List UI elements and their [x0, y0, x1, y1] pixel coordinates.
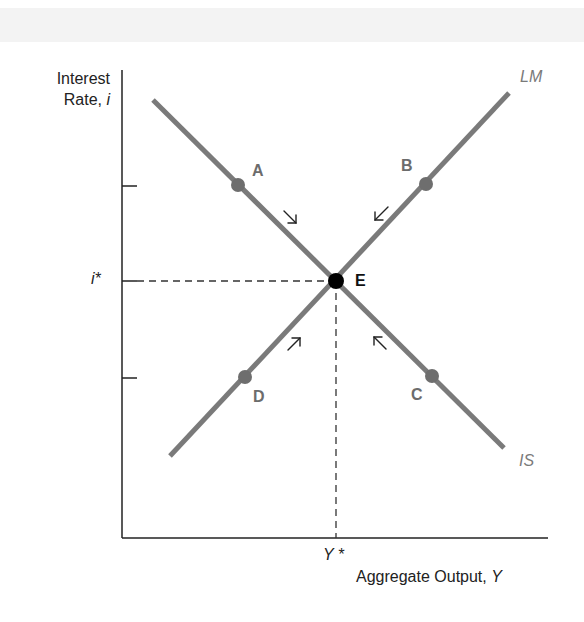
point-c-label: C: [411, 386, 423, 404]
point-b: [419, 177, 433, 191]
y-axis-var: i: [106, 91, 110, 108]
arrow-a-to-e-icon: [284, 211, 296, 223]
x-axis-var: Y: [491, 568, 502, 585]
point-a-label: A: [252, 162, 264, 180]
i-star-label: i*: [91, 270, 101, 288]
point-d: [238, 370, 252, 384]
point-a: [231, 178, 245, 192]
y-star-label: Y *: [323, 546, 344, 564]
x-axis-label: Aggregate Output, Y: [356, 568, 502, 586]
y-axis-label-line1: Interest: [40, 68, 110, 89]
y-axis-label: Interest Rate, i: [40, 68, 110, 110]
point-c: [425, 369, 439, 383]
arrow-c-to-e-icon: [374, 337, 386, 349]
point-b-label: B: [401, 157, 413, 175]
arrow-d-to-e-icon: [288, 338, 300, 350]
arrow-b-to-e-icon: [375, 207, 388, 220]
point-d-label: D: [253, 388, 265, 406]
y-axis-label-line2: Rate, i: [40, 89, 110, 110]
is-curve-label: IS: [519, 452, 534, 470]
lm-curve-label: LM: [520, 68, 542, 86]
point-e-label: E: [355, 272, 366, 290]
point-e-equilibrium: [328, 273, 344, 289]
